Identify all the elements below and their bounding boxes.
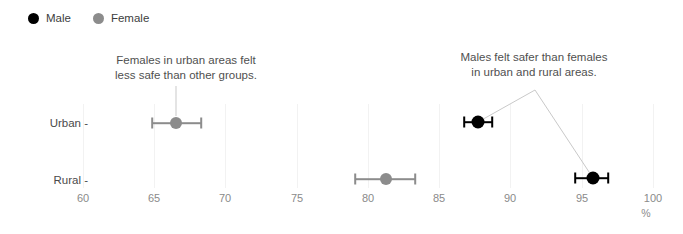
chart-container: Male Female	[0, 0, 683, 234]
x-axis-tick: 75	[291, 193, 303, 204]
error-bar-cap	[491, 117, 493, 128]
x-axis-tick: 80	[362, 193, 374, 204]
x-axis-tick: 60	[77, 193, 89, 204]
error-bar-cap	[463, 117, 465, 128]
x-axis-tick: 85	[433, 193, 445, 204]
y-axis-label-urban: Urban -	[18, 118, 88, 130]
x-axis-tick: 95	[576, 193, 588, 204]
gridline	[582, 104, 583, 188]
gridline	[154, 104, 155, 188]
y-axis-label-rural: Rural -	[18, 175, 88, 187]
gridline	[368, 104, 369, 188]
x-axis-tick: 65	[148, 193, 160, 204]
gridline	[225, 104, 226, 188]
data-point-female-urban	[170, 117, 182, 129]
error-bar-cap	[354, 174, 356, 185]
error-bar-cap	[574, 173, 576, 184]
x-axis-tick: 100	[644, 193, 662, 204]
annotation-male-safer: Males felt safer than females in urban a…	[432, 50, 636, 80]
gridline	[297, 104, 298, 188]
data-point-female-rural	[380, 173, 392, 185]
x-axis-tick: 90	[504, 193, 516, 204]
error-bar-cap	[151, 118, 153, 129]
gridline	[510, 104, 511, 188]
error-bar-cap	[607, 173, 609, 184]
data-point-male-rural	[587, 172, 600, 185]
x-axis-unit-label: %	[641, 208, 650, 219]
annotation-female-urban: Females in urban areas felt less safe th…	[88, 53, 284, 83]
plot-area: Urban - Rural - 60 65 70 75 80 85 90 95 …	[0, 0, 683, 234]
error-bar-cap	[414, 174, 416, 185]
x-axis-tick: 70	[219, 193, 231, 204]
gridline	[439, 104, 440, 188]
gridline	[653, 104, 654, 188]
data-point-male-urban	[472, 116, 485, 129]
